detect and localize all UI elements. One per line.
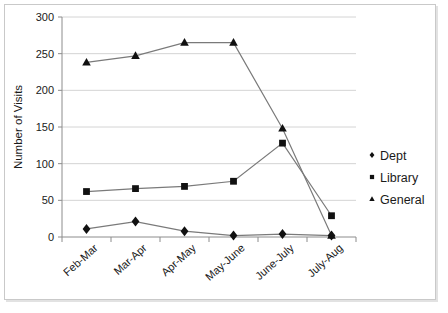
y-axis-tick-label: 50 — [42, 194, 54, 206]
y-axis-tick-label: 100 — [36, 158, 54, 170]
line-chart-svg: 050100150200250300 Feb-MarMar-AprApr-May… — [0, 0, 448, 313]
data-point-library — [328, 212, 335, 219]
series-line-dept — [87, 222, 332, 236]
x-axis-category-label: May-June — [203, 242, 247, 283]
y-axis-tick-label: 200 — [36, 84, 54, 96]
chart-container: 050100150200250300 Feb-MarMar-AprApr-May… — [0, 0, 448, 313]
data-point-library — [83, 188, 90, 195]
y-axis-tick-label: 0 — [48, 231, 54, 243]
legend-label-general: General — [380, 193, 424, 207]
series-lines-group — [87, 43, 332, 236]
series-markers-group — [82, 38, 336, 240]
y-axis-title: Number of Visits — [12, 85, 24, 169]
x-axis-tickmarks — [62, 237, 356, 242]
legend-marker-dept-icon — [370, 152, 375, 158]
x-axis-category-label: July-Aug — [305, 242, 345, 280]
y-axis-tick-label: 150 — [36, 121, 54, 133]
x-axis-category-label: June-July — [253, 241, 296, 282]
series-line-general — [87, 43, 332, 236]
data-point-dept — [279, 229, 287, 239]
x-axis-category-label: Mar-Apr — [111, 241, 149, 277]
y-axis-tick-label: 300 — [36, 11, 54, 23]
legend-marker-general-icon — [369, 196, 374, 201]
data-point-general — [278, 124, 287, 132]
legend-marker-library-icon — [370, 175, 374, 179]
x-axis-category-label: Apr-May — [159, 241, 198, 278]
data-point-library — [279, 140, 286, 147]
data-point-general — [229, 38, 238, 46]
data-point-library — [132, 185, 139, 192]
gridlines-group — [58, 17, 356, 237]
data-point-general — [180, 38, 189, 46]
x-axis-category-label: Feb-Mar — [61, 241, 100, 278]
legend: DeptLibraryGeneral — [369, 149, 424, 207]
data-point-dept — [181, 226, 189, 236]
legend-label-library: Library — [380, 171, 419, 185]
data-point-dept — [230, 231, 238, 241]
data-point-library — [181, 183, 188, 190]
data-point-dept — [83, 224, 91, 234]
legend-label-dept: Dept — [380, 149, 407, 163]
data-point-dept — [132, 217, 140, 227]
y-axis-tick-label: 250 — [36, 48, 54, 60]
x-axis-category-labels: Feb-MarMar-AprApr-MayMay-JuneJune-JulyJu… — [61, 241, 345, 283]
y-axis-tick-labels: 050100150200250300 — [36, 11, 54, 243]
data-point-library — [230, 178, 237, 185]
